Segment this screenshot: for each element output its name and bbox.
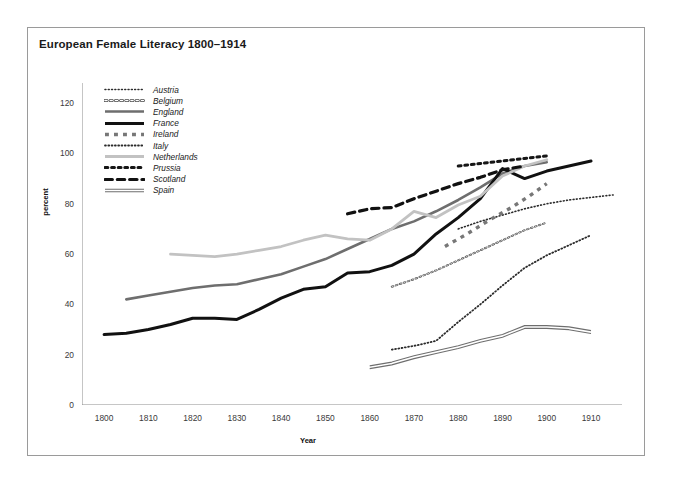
y-tick-label: 100 — [44, 148, 74, 158]
y-tick-label: 120 — [44, 98, 74, 108]
chart-page: European Female Literacy 1800–1914 perce… — [0, 0, 673, 485]
legend-item-austria: Austria — [104, 84, 198, 95]
legend-swatch-england — [104, 106, 145, 117]
y-tick-label: 20 — [44, 350, 74, 360]
x-tick-label: 1850 — [305, 413, 345, 423]
series-austria — [458, 195, 613, 229]
legend-item-france: France — [104, 118, 198, 129]
x-tick-label: 1860 — [350, 413, 390, 423]
y-tick-label: 80 — [44, 199, 74, 209]
legend-item-ireland: Ireland — [104, 129, 198, 140]
legend-item-belgium: Belgium — [104, 95, 198, 106]
legend-label: Italy — [153, 141, 168, 151]
series-italy — [392, 235, 591, 349]
chart-legend: AustriaBelgiumEnglandFranceIrelandItalyN… — [104, 84, 198, 196]
x-tick-label: 1810 — [128, 413, 168, 423]
legend-item-netherlands: Netherlands — [104, 151, 198, 162]
legend-label: Scotland — [153, 174, 185, 184]
legend-swatch-scotland — [104, 174, 145, 185]
x-tick-label: 1890 — [482, 413, 522, 423]
legend-label: Spain — [153, 185, 174, 195]
legend-label: Prussia — [153, 163, 181, 173]
x-axis-label: Year — [300, 436, 316, 445]
x-tick-label: 1840 — [261, 413, 301, 423]
legend-swatch-spain — [104, 185, 145, 196]
legend-swatch-belgium — [104, 95, 145, 106]
legend-item-spain: Spain — [104, 185, 198, 196]
legend-label: Austria — [153, 85, 179, 95]
y-tick-label: 40 — [44, 299, 74, 309]
legend-label: England — [153, 107, 183, 117]
x-tick-label: 1830 — [217, 413, 257, 423]
legend-label: Netherlands — [153, 152, 198, 162]
x-tick-label: 1900 — [527, 413, 567, 423]
legend-swatch-austria — [104, 84, 145, 95]
x-tick-label: 1800 — [84, 413, 124, 423]
legend-item-italy: Italy — [104, 140, 198, 151]
chart-title: European Female Literacy 1800–1914 — [39, 38, 246, 50]
legend-swatch-prussia — [104, 162, 145, 173]
x-tick-label: 1910 — [571, 413, 611, 423]
x-tick-label: 1880 — [438, 413, 478, 423]
legend-swatch-ireland — [104, 129, 145, 140]
y-tick-label: 60 — [44, 249, 74, 259]
x-tick-label: 1820 — [173, 413, 213, 423]
legend-swatch-italy — [104, 140, 145, 151]
x-tick-label: 1870 — [394, 413, 434, 423]
legend-label: Ireland — [153, 129, 178, 139]
legend-item-scotland: Scotland — [104, 174, 198, 185]
legend-item-prussia: Prussia — [104, 162, 198, 173]
legend-label: Belgium — [153, 96, 183, 106]
legend-item-england: England — [104, 106, 198, 117]
legend-label: France — [153, 118, 179, 128]
legend-swatch-netherlands — [104, 151, 145, 162]
legend-swatch-france — [104, 118, 145, 129]
y-tick-label: 0 — [44, 400, 74, 410]
